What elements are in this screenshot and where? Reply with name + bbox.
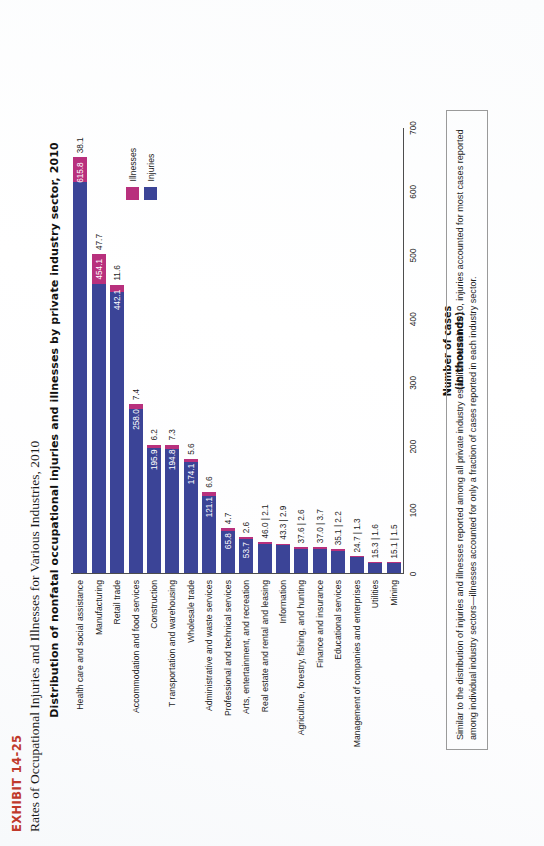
category-label: Construction bbox=[149, 580, 159, 629]
stacked-bar: 174.15.6 bbox=[184, 459, 198, 573]
bar-segment-illnesses bbox=[221, 528, 235, 531]
bar-segment-injuries bbox=[313, 549, 327, 573]
x-axis-tick: 300 bbox=[404, 376, 418, 390]
stacked-bar: 43.3 | 2.9 bbox=[276, 544, 290, 573]
illnesses-value-label: 7.4 bbox=[131, 389, 140, 400]
stacked-bar: 454.147.7 bbox=[92, 254, 106, 573]
stacked-bar: 53.72.6 bbox=[239, 537, 253, 573]
bar-row: Wholesale trade174.15.6 bbox=[182, 128, 200, 573]
bar-segment-injuries bbox=[331, 551, 345, 573]
category-label: Professional and technical services bbox=[223, 580, 233, 716]
exhibit-header: EXHIBIT 14-25 Rates of Occupational Inju… bbox=[10, 272, 43, 832]
legend-swatch bbox=[126, 187, 139, 200]
stacked-bar: 442.111.6 bbox=[110, 285, 124, 573]
bar-segment-injuries bbox=[294, 549, 308, 573]
category-label: Utilities bbox=[370, 580, 380, 608]
stacked-bar: 37.6 | 2.6 bbox=[294, 547, 308, 573]
bar-row: Administrative and waste services121.16.… bbox=[200, 128, 218, 573]
bar-segment-illnesses bbox=[258, 542, 272, 543]
bar-segment-injuries bbox=[350, 557, 364, 573]
illnesses-value-label: 6.2 bbox=[149, 429, 158, 440]
illnesses-value-label: 4.7 bbox=[223, 513, 232, 524]
stacked-bar: 65.84.7 bbox=[221, 528, 235, 573]
category-label: Administrative and waste services bbox=[204, 580, 214, 711]
bar-segment-illnesses bbox=[368, 562, 382, 563]
legend-swatch bbox=[144, 187, 157, 200]
x-axis-tick: 200 bbox=[404, 440, 418, 454]
bar-row: Professional and technical services65.84… bbox=[219, 128, 237, 573]
injuries-value-label: 454.1 bbox=[94, 259, 103, 280]
injuries-value-label: 194.8 bbox=[168, 450, 177, 471]
x-axis-tick: 500 bbox=[404, 248, 418, 262]
injuries-value-label: 174.1 bbox=[186, 464, 195, 485]
bar-row: Real estate and rental and leasing46.0 |… bbox=[255, 128, 273, 573]
bar-segment-injuries bbox=[92, 284, 106, 573]
injuries-value-label: 65.8 bbox=[223, 533, 232, 549]
injuries-value-label: 258.0 bbox=[131, 409, 140, 430]
exhibit-subtitle: Rates of Occupational Injuries and Illne… bbox=[27, 272, 43, 832]
bar-row: Educational services35.1 | 2.2 bbox=[329, 128, 347, 573]
stacked-bar: 46.0 | 2.1 bbox=[258, 542, 272, 573]
bar-row: Retail trade442.111.6 bbox=[108, 128, 126, 573]
scanned-page: EXHIBIT 14-25 Rates of Occupational Inju… bbox=[0, 0, 544, 846]
injuries-value-label: 37.6 | 2.6 bbox=[297, 509, 306, 543]
stacked-bar: 258.07.4 bbox=[129, 404, 143, 573]
bar-segment-illnesses bbox=[294, 547, 308, 549]
category-label: Real estate and rental and leasing bbox=[260, 580, 270, 712]
illnesses-value-label: 2.6 bbox=[242, 522, 251, 533]
stacked-bar: 24.7 | 1.3 bbox=[350, 556, 364, 573]
category-label: Agriculture, forestry, fishing, and hunt… bbox=[296, 580, 306, 735]
bar-segment-illnesses bbox=[387, 562, 401, 563]
category-label: Mining bbox=[389, 580, 399, 606]
injuries-value-label: 37.0 | 3.7 bbox=[315, 509, 324, 543]
stacked-bar: 195.96.2 bbox=[147, 445, 161, 573]
category-label: Retail trade bbox=[112, 580, 122, 625]
legend-label: Injuries bbox=[146, 154, 156, 182]
injuries-value-label: 15.3 | 1.6 bbox=[371, 524, 380, 558]
legend-label: Illnesses bbox=[128, 148, 138, 181]
bar-row: Mining15.1 | 1.5 bbox=[384, 128, 402, 573]
bar-segment-illnesses bbox=[276, 544, 290, 546]
x-axis-tick: 100 bbox=[404, 503, 418, 517]
stacked-bar: 15.3 | 1.6 bbox=[368, 562, 382, 573]
injuries-value-label: 43.3 | 2.9 bbox=[279, 506, 288, 540]
bar-segment-illnesses bbox=[331, 549, 345, 550]
illnesses-value-label: 5.6 bbox=[186, 443, 195, 454]
category-label: Information bbox=[278, 580, 288, 624]
bar-segment-injuries bbox=[110, 292, 124, 573]
bar-rows: Health care and social assistance615.838… bbox=[71, 128, 403, 573]
x-axis-tick: 400 bbox=[404, 312, 418, 326]
bar-segment-injuries bbox=[276, 545, 290, 573]
stacked-bar: 121.16.6 bbox=[202, 492, 216, 573]
bar-row: Manufacturing454.147.7 bbox=[89, 128, 107, 573]
stacked-bar: 194.87.3 bbox=[165, 445, 179, 573]
category-label: Manufacturing bbox=[94, 580, 104, 635]
injuries-value-label: 15.1 | 1.5 bbox=[389, 524, 398, 558]
category-label: Accommodation and food services bbox=[131, 580, 141, 713]
illnesses-value-label: 38.1 bbox=[76, 137, 85, 153]
legend-item: Illnesses bbox=[126, 148, 139, 200]
exhibit-number: EXHIBIT 14-25 bbox=[10, 272, 24, 832]
bar-row: Arts, entertainment, and recreation53.72… bbox=[237, 128, 255, 573]
caption-box: Similar to the distribution of injuries … bbox=[446, 110, 488, 750]
bar-row: Finance and insurance37.0 | 3.7 bbox=[311, 128, 329, 573]
stacked-bar: 35.1 | 2.2 bbox=[331, 549, 345, 573]
illnesses-value-label: 11.6 bbox=[113, 265, 122, 280]
illnesses-value-label: 7.3 bbox=[168, 429, 177, 440]
legend-item: Injuries bbox=[144, 148, 157, 200]
injuries-value-label: 195.9 bbox=[149, 450, 158, 471]
bar-segment-injuries bbox=[258, 544, 272, 573]
category-label: Arts, entertainment, and recreation bbox=[241, 580, 251, 714]
injuries-value-label: 35.1 | 2.2 bbox=[334, 511, 343, 545]
bar-segment-illnesses bbox=[313, 547, 327, 549]
injuries-value-label: 121.1 bbox=[205, 497, 214, 518]
injuries-value-label: 442.1 bbox=[113, 290, 122, 311]
stacked-bar: 615.838.1 bbox=[73, 157, 87, 573]
category-label: Management of companies and enterprises bbox=[352, 580, 362, 747]
bar-segment-illnesses bbox=[147, 445, 161, 449]
bar-row: Management of companies and enterprises2… bbox=[348, 128, 366, 573]
category-label: Educational services bbox=[333, 580, 343, 660]
bar-row: Information43.3 | 2.9 bbox=[274, 128, 292, 573]
injuries-value-label: 24.7 | 1.3 bbox=[352, 518, 361, 552]
x-axis-tick: 600 bbox=[404, 185, 418, 199]
